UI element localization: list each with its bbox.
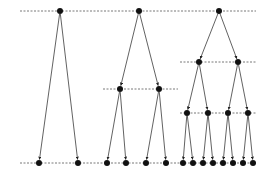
- node-l1: [36, 160, 42, 166]
- node-b2: [235, 59, 241, 65]
- node-l3: [104, 160, 110, 166]
- edges: [39, 14, 252, 160]
- edge-c2-l9: [203, 116, 207, 160]
- edge-c1-l8: [187, 116, 192, 160]
- node-l10: [210, 160, 216, 166]
- node-c1: [184, 110, 190, 116]
- node-c3: [225, 110, 231, 116]
- node-l12: [230, 160, 236, 166]
- edge-c4-l13: [243, 116, 247, 160]
- edge-c1-l7: [183, 116, 186, 160]
- edge-b2-c3: [229, 65, 238, 110]
- edge-b1-c1: [188, 65, 199, 110]
- node-l14: [250, 160, 256, 166]
- edge-r3-b2: [220, 14, 237, 59]
- edge-b1-c2: [200, 65, 208, 110]
- node-l7: [180, 160, 186, 166]
- node-r1: [57, 8, 63, 14]
- edge-b2-c4: [239, 65, 248, 110]
- node-c4: [245, 110, 251, 116]
- node-a2: [156, 86, 162, 92]
- edge-c2-l10: [208, 116, 212, 160]
- node-a1: [117, 86, 123, 92]
- edge-c3-l11: [223, 116, 227, 160]
- edge-r1-l2: [60, 14, 77, 160]
- node-l9: [200, 160, 206, 166]
- edge-c3-l12: [228, 116, 232, 160]
- level-lines: [20, 11, 256, 163]
- node-l5: [143, 160, 149, 166]
- node-c2: [205, 110, 211, 116]
- node-r3: [216, 8, 222, 14]
- edge-a1-l3: [108, 92, 120, 160]
- edge-r3-b1: [200, 14, 218, 59]
- node-l11: [220, 160, 226, 166]
- edge-a1-l4: [120, 92, 125, 160]
- tree-diagram: [0, 0, 268, 181]
- edge-a2-l6: [159, 92, 165, 160]
- edge-a2-l5: [147, 92, 159, 160]
- edge-r1-l1: [39, 14, 59, 160]
- node-l6: [163, 160, 169, 166]
- node-l8: [190, 160, 196, 166]
- node-b1: [196, 59, 202, 65]
- node-l2: [75, 160, 81, 166]
- node-r2: [136, 8, 142, 14]
- edge-c4-l14: [248, 116, 252, 160]
- edge-r2-a1: [121, 14, 138, 86]
- node-l4: [123, 160, 129, 166]
- node-l13: [240, 160, 246, 166]
- edge-r2-a2: [140, 14, 158, 86]
